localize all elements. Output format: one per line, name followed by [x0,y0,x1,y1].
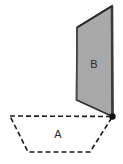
region-b-left-edge-highlight [77,28,78,101]
region-a-label: A [54,128,62,140]
geometry-canvas: A B [0,0,123,164]
region-b-right-edge-highlight [112,6,113,117]
shared-vertex-point [109,113,115,119]
geometry-figure: A B [0,0,123,164]
region-b-label: B [90,58,97,70]
